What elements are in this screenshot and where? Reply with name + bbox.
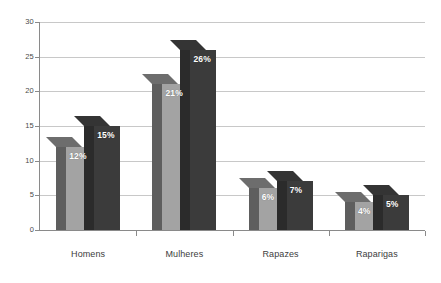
x-tick-mark bbox=[233, 231, 234, 236]
x-tick-mark bbox=[425, 231, 426, 236]
bar-value-label: 4% bbox=[358, 206, 371, 216]
bar-side-face bbox=[373, 195, 383, 230]
bar-top-face bbox=[180, 40, 206, 50]
y-tick-label: 20 bbox=[6, 86, 34, 95]
x-category-label-rapazes: Rapazes bbox=[231, 249, 331, 259]
bar-top-face bbox=[373, 185, 399, 195]
bar-chart: 051015202530 HomensMulheresRapazesRapari… bbox=[0, 0, 441, 283]
bar-side-face bbox=[152, 84, 162, 230]
y-axis-labels: 051015202530 bbox=[0, 0, 34, 283]
bar-top-face bbox=[345, 192, 371, 202]
y-tick-mark bbox=[35, 57, 40, 58]
y-tick-label: 5 bbox=[6, 190, 34, 199]
bar-top-face bbox=[152, 74, 178, 84]
y-tick-label: 0 bbox=[6, 225, 34, 234]
bar-top-face bbox=[277, 171, 303, 181]
y-tick-mark bbox=[35, 161, 40, 162]
bar-mulheres-series-2 bbox=[190, 40, 216, 230]
bar-value-label: 7% bbox=[290, 185, 303, 195]
y-tick-mark bbox=[35, 22, 40, 23]
bar-value-label: 21% bbox=[165, 88, 183, 98]
bar-top-face bbox=[249, 178, 275, 188]
x-tick-mark bbox=[136, 231, 137, 236]
y-tick-label: 15 bbox=[6, 121, 34, 130]
y-tick-label: 25 bbox=[6, 52, 34, 61]
y-tick-mark bbox=[35, 195, 40, 196]
bar-value-label: 12% bbox=[69, 151, 87, 161]
gridline bbox=[40, 22, 425, 23]
gridline bbox=[40, 91, 425, 92]
gridline bbox=[40, 57, 425, 58]
x-tick-mark bbox=[329, 231, 330, 236]
bar-front-face bbox=[190, 50, 216, 230]
x-category-label-homens: Homens bbox=[38, 249, 138, 259]
y-tick-mark bbox=[35, 91, 40, 92]
bar-side-face bbox=[56, 147, 66, 230]
y-tick-label: 10 bbox=[6, 156, 34, 165]
x-category-label-raparigas: Raparigas bbox=[327, 249, 427, 259]
x-category-label-mulheres: Mulheres bbox=[134, 249, 234, 259]
bar-side-face bbox=[277, 181, 287, 230]
bar-top-face bbox=[84, 116, 110, 126]
bar-front-face bbox=[94, 126, 120, 230]
bar-side-face bbox=[84, 126, 94, 230]
bar-rapazes-series-2 bbox=[287, 171, 313, 230]
bar-value-label: 6% bbox=[262, 192, 275, 202]
bar-side-face bbox=[345, 202, 355, 230]
bar-side-face bbox=[249, 188, 259, 230]
bar-value-label: 15% bbox=[97, 130, 115, 140]
bar-value-label: 26% bbox=[193, 54, 211, 64]
bar-value-label: 5% bbox=[386, 199, 399, 209]
bar-side-face bbox=[180, 50, 190, 230]
bar-top-face bbox=[56, 137, 82, 147]
y-tick-mark bbox=[35, 126, 40, 127]
y-tick-mark bbox=[35, 230, 40, 231]
y-tick-label: 30 bbox=[6, 17, 34, 26]
